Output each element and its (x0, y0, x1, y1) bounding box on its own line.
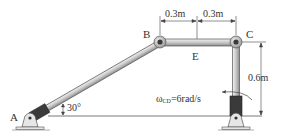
dimension-ec-label: 0.3m (203, 8, 224, 19)
pin-b (154, 36, 166, 48)
dimension-be-label: 0.3m (165, 8, 186, 19)
angle-label: 30° (67, 102, 81, 113)
pin-support-d (218, 113, 254, 130)
label-e: E (192, 50, 199, 62)
dimension-cd-label: 0.6m (248, 72, 269, 83)
link-bc (160, 39, 236, 46)
link-ab (28, 39, 163, 123)
angular-velocity-label: ωCD=6rad/s (156, 93, 201, 104)
dimension-bc (160, 16, 236, 39)
angle-indicator (62, 104, 65, 115)
mechanism-diagram: A B C E 0.3m 0.3m 0.6m 30° ωCD=6rad/s (0, 0, 281, 139)
pin-c (230, 36, 242, 48)
label-b: B (143, 28, 150, 40)
label-a: A (10, 111, 18, 123)
label-c: C (246, 28, 253, 40)
